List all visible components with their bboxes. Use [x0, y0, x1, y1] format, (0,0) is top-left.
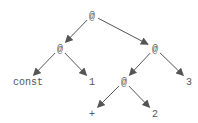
edge-arrow — [66, 20, 88, 42]
edge-arrow — [160, 53, 183, 76]
tree-node: 3 — [186, 77, 192, 88]
edge-arrow — [129, 53, 150, 75]
tree-node: 2 — [152, 109, 158, 120]
tree-node: @ — [89, 11, 95, 22]
edges-group — [34, 18, 184, 107]
edge-arrow — [98, 86, 119, 107]
tree-node: const — [13, 77, 43, 88]
tree-node: 1 — [89, 77, 95, 88]
tree-node: @ — [121, 77, 127, 88]
tree-node: @ — [57, 44, 63, 55]
edge-arrow — [34, 53, 56, 75]
tree-node: @ — [152, 44, 158, 55]
edge-arrow — [65, 53, 87, 75]
tree-node: + — [89, 109, 95, 120]
edge-arrow — [129, 86, 150, 107]
edge-arrow — [98, 18, 148, 44]
tree-diagram: @@@const1@3+2 — [0, 0, 198, 123]
